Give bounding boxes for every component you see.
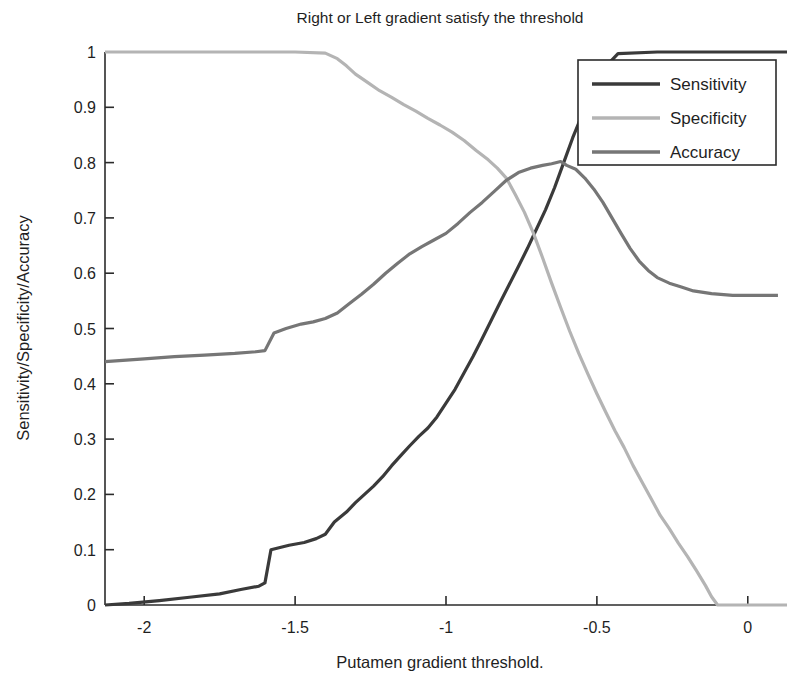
y-tick-label: 0.3: [74, 431, 96, 448]
x-tick-label: -2: [137, 619, 151, 636]
y-tick-label: 0.4: [74, 376, 96, 393]
chart-legend[interactable]: SensitivitySpecificityAccuracy: [578, 60, 776, 165]
x-axis-label: Putamen gradient threshold.: [336, 653, 543, 671]
legend-label-accuracy: Accuracy: [670, 143, 740, 162]
legend-label-sensitivity: Sensitivity: [670, 75, 747, 94]
y-tick-label: 0.5: [74, 321, 96, 338]
legend-label-specificity: Specificity: [670, 109, 747, 128]
chart-title: Right or Left gradient satisfy the thres…: [297, 9, 584, 26]
y-axis-label: Sensitivity/Specificity/Accuracy: [14, 214, 32, 440]
y-tick-label: 0.8: [74, 155, 96, 172]
x-tick-label: -0.5: [583, 619, 611, 636]
y-tick-label: 0.2: [74, 486, 96, 503]
y-axis-ticks: 00.10.20.30.40.50.60.70.80.91: [74, 44, 114, 614]
y-tick-label: 0.9: [74, 99, 96, 116]
x-axis-ticks: -2-1.5-1-0.50: [137, 596, 752, 636]
x-tick-label: -1: [439, 619, 453, 636]
roc-line-chart: Right or Left gradient satisfy the thres…: [0, 0, 801, 691]
chart-figure: Right or Left gradient satisfy the thres…: [0, 0, 801, 691]
y-tick-label: 0.6: [74, 265, 96, 282]
x-tick-label: -1.5: [281, 619, 309, 636]
y-tick-label: 0.7: [74, 210, 96, 227]
x-tick-label: 0: [743, 619, 752, 636]
series-line-accuracy: [105, 161, 778, 361]
y-tick-label: 0: [87, 597, 96, 614]
y-tick-label: 1: [87, 44, 96, 61]
y-tick-label: 0.1: [74, 542, 96, 559]
